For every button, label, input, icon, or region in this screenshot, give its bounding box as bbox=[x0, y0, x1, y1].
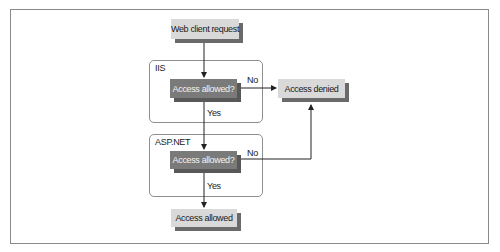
node-aspnet-access-check: Access allowed? bbox=[170, 151, 237, 169]
edge-label-iis-yes: Yes bbox=[207, 108, 221, 118]
node-web-client-request: Web client request bbox=[171, 19, 239, 39]
group-aspnet-label: ASP.NET bbox=[155, 137, 190, 147]
diagram-frame bbox=[10, 9, 489, 244]
edge-label-iis-no: No bbox=[247, 75, 258, 85]
edge-label-aspnet-yes: Yes bbox=[207, 181, 221, 191]
node-access-denied: Access denied bbox=[278, 79, 345, 98]
node-access-allowed: Access allowed bbox=[171, 209, 237, 227]
node-label: Access allowed bbox=[175, 213, 232, 223]
node-label: Access denied bbox=[285, 84, 339, 94]
group-iis-label: IIS bbox=[155, 63, 165, 73]
node-label: Access allowed? bbox=[173, 84, 235, 94]
node-iis-access-check: Access allowed? bbox=[170, 79, 237, 98]
edge-label-aspnet-no: No bbox=[247, 148, 258, 158]
node-label: Access allowed? bbox=[173, 155, 235, 165]
node-label: Web client request bbox=[171, 24, 239, 34]
